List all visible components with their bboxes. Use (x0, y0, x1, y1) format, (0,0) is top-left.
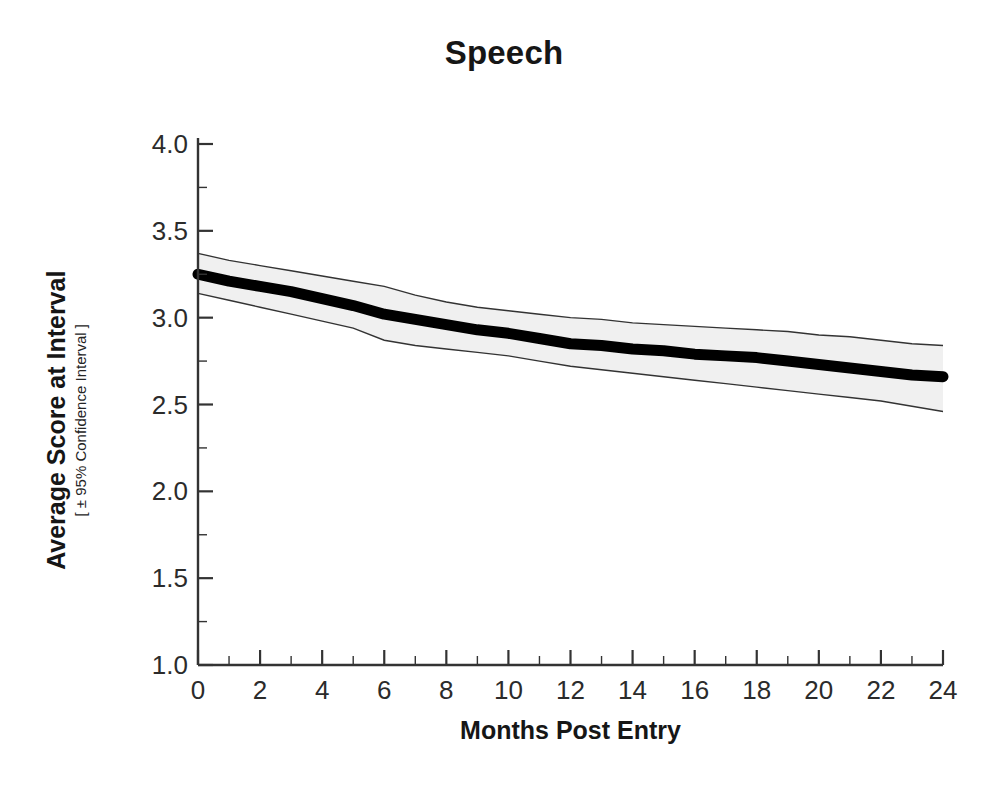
x-tick-label: 8 (439, 675, 453, 706)
y-tick-label: 1.5 (120, 563, 188, 594)
y-axis-ticks (198, 144, 213, 665)
chart-figure: Speech Average Score at Interval [ ± 95%… (0, 0, 1008, 806)
y-tick-label: 2.5 (120, 389, 188, 420)
x-tick-label: 18 (742, 675, 771, 706)
y-tick-label: 4.0 (120, 129, 188, 160)
x-tick-label: 2 (253, 675, 267, 706)
x-tick-label: 16 (680, 675, 709, 706)
x-tick-label: 24 (929, 675, 958, 706)
x-tick-label: 22 (866, 675, 895, 706)
y-tick-label: 3.0 (120, 302, 188, 333)
axes (198, 138, 943, 665)
x-axis-ticks (198, 650, 943, 665)
x-tick-label: 20 (804, 675, 833, 706)
y-tick-label: 1.0 (120, 650, 188, 681)
y-tick-label: 3.5 (120, 215, 188, 246)
y-tick-label: 2.0 (120, 476, 188, 507)
confidence-band-fill (198, 253, 943, 411)
x-tick-label: 12 (556, 675, 585, 706)
x-tick-label: 10 (494, 675, 523, 706)
x-tick-label: 14 (618, 675, 647, 706)
x-tick-label: 6 (377, 675, 391, 706)
x-tick-label: 0 (191, 675, 205, 706)
x-tick-label: 4 (315, 675, 329, 706)
confidence-band (198, 253, 943, 411)
